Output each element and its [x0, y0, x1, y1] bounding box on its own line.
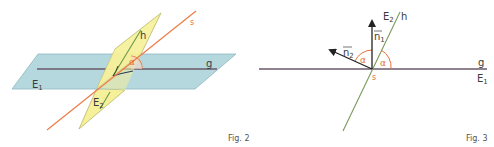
svg-text:n1: n1	[374, 31, 385, 44]
caption-fig2: Fig. 2	[228, 134, 250, 143]
label-g: g	[206, 58, 212, 69]
label-alpha-right: α	[380, 58, 386, 68]
label-s: s	[190, 18, 194, 27]
diagram-canvas: E1 E2 h s g α Fig. 2 E2 h n1	[0, 0, 494, 147]
label-alpha-left: α	[360, 55, 366, 65]
svg-text:n2: n2	[343, 47, 354, 60]
label-n2: n2	[343, 47, 354, 60]
label-h: h	[140, 30, 146, 41]
label-e1: E1	[477, 73, 488, 86]
label-point-s: s	[372, 73, 376, 82]
label-alpha: α	[129, 57, 135, 67]
label-h: h	[401, 11, 407, 22]
figure-2: E1 E2 h s g α Fig. 2	[12, 11, 250, 143]
label-g: g	[478, 57, 484, 68]
caption-fig3: Fig. 3	[466, 134, 488, 143]
label-e2: E2	[383, 11, 394, 24]
label-n1: n1	[374, 31, 385, 44]
figure-3: E2 h n1 n2 α α s g E1 Fig. 3	[259, 11, 488, 143]
